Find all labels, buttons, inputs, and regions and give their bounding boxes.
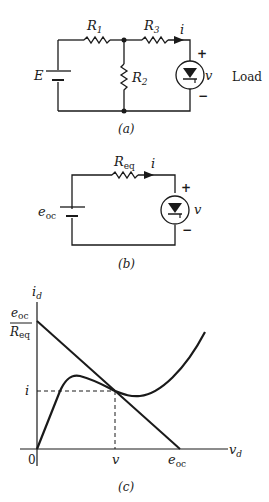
circuit-b [60,172,189,245]
minus-sign-b: − [182,223,192,237]
source-label-eoc: eoc [38,204,56,221]
y-intercept-denominator: Req [9,325,30,340]
circuit-a [46,37,204,111]
req-label: Req [113,154,135,171]
caption-b: (b) [118,257,135,271]
source-label-e: E [33,68,44,83]
resistor-req [112,172,138,178]
r2-label: R2 [131,70,148,87]
minus-sign-a: − [198,89,208,103]
load-line [37,321,180,449]
plus-sign-a: + [197,47,207,61]
caption-c: (c) [118,480,134,494]
node-bottom [122,109,127,114]
resistor-r3 [142,37,168,43]
operating-voltage-label: v [112,452,120,467]
graph-c [20,302,228,466]
r1-label: R1 [86,18,103,35]
plus-sign-b: + [181,181,191,195]
y-intercept-numerator: eoc [11,306,29,321]
current-label-a: i [180,22,184,37]
voltage-label-b: v [194,202,202,217]
caption-a: (a) [118,122,135,136]
y-axis-label: id [32,284,42,301]
r3-label: R3 [143,18,160,35]
figure-canvas: R1 R3 R2 i E + − v Load (a) Req i eoc + … [0,0,269,502]
operating-current-label: i [25,383,29,398]
x-axis-label: vd [229,442,242,459]
voltage-label-a: v [205,68,213,83]
resistor-r1 [84,37,110,43]
node-top [122,38,127,43]
x-intercept-label: eoc [168,452,186,469]
diode-symbol-a [183,68,197,78]
current-arrow-b [144,171,154,179]
load-label: Load [232,70,262,84]
current-label-b: i [151,156,155,171]
current-arrow-a [174,36,184,44]
resistor-r2 [121,64,127,111]
origin-label: 0 [28,453,36,467]
device-characteristic-curve [37,332,205,449]
diode-symbol-b [168,203,182,213]
